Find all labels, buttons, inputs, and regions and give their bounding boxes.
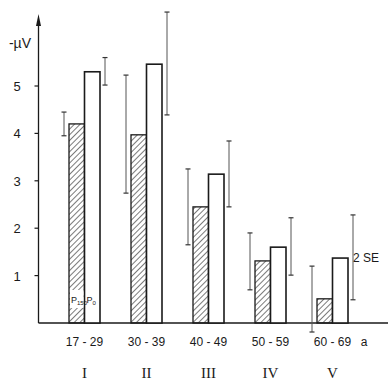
group-label: II xyxy=(142,365,152,381)
bar-p150 xyxy=(131,135,147,323)
y-tick-label: 5 xyxy=(13,79,20,94)
x-tick-label: 60 - 69 xyxy=(314,335,352,349)
y-tick-label: 1 xyxy=(13,269,20,284)
bar-p0 xyxy=(85,72,101,323)
bar-p0 xyxy=(147,64,163,323)
se-annotation: 2 SE xyxy=(353,251,379,265)
group-label: V xyxy=(327,365,338,381)
x-axis-unit: a xyxy=(361,335,368,349)
bars xyxy=(69,64,348,323)
x-tick-label: 17 - 29 xyxy=(66,335,104,349)
y-tick-label: 2 xyxy=(13,221,20,236)
group-label: III xyxy=(201,365,216,381)
y-tick-label: 4 xyxy=(13,126,20,141)
y-axis-unit: -µV xyxy=(9,35,32,51)
x-tick-label: 40 - 49 xyxy=(190,335,228,349)
bar-chart: 12345-µV17 - 29I30 - 39II40 - 49III50 - … xyxy=(0,0,388,386)
group-label: IV xyxy=(263,365,279,381)
bar-p0 xyxy=(333,258,349,323)
x-tick-label: 50 - 59 xyxy=(252,335,290,349)
x-tick-label: 30 - 39 xyxy=(128,335,166,349)
bar-p0 xyxy=(271,247,287,323)
group-label: I xyxy=(82,365,87,381)
y-axis-arrow-icon xyxy=(36,14,41,26)
bar-p150 xyxy=(255,261,271,323)
y-tick-label: 3 xyxy=(13,174,20,189)
bar-p0 xyxy=(209,174,225,323)
bar-p150 xyxy=(193,207,209,323)
bar-p150 xyxy=(317,299,333,323)
